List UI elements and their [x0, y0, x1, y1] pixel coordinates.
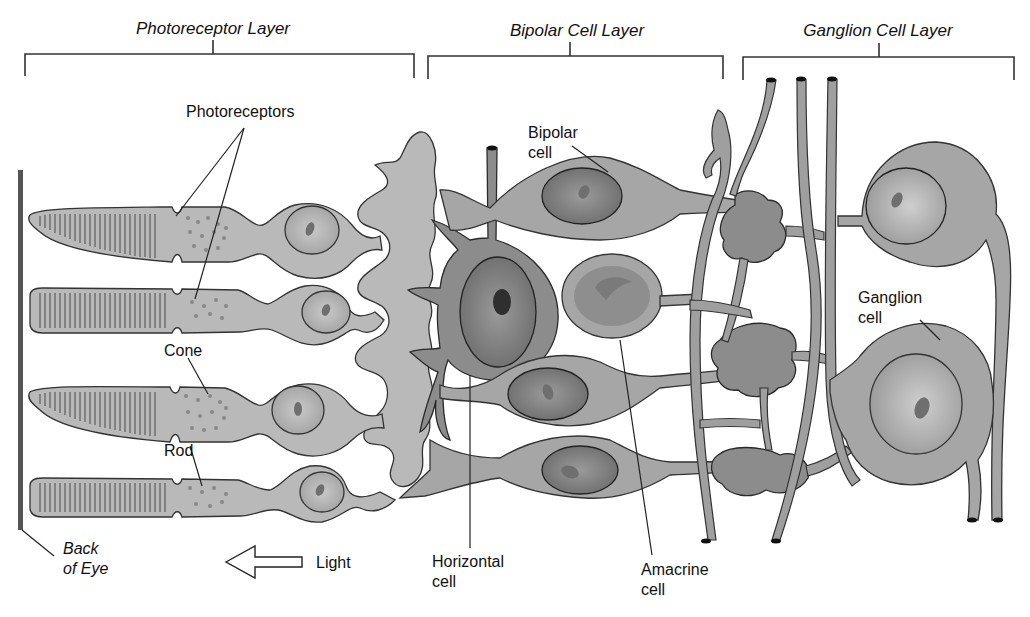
layer-bracket-photoreceptor: Photoreceptor Layer [25, 19, 414, 78]
photoreceptor-synaptic-terminals [355, 132, 436, 487]
rod-cell-2 [30, 466, 395, 522]
layer-bracket-ganglion: Ganglion Cell Layer [743, 21, 1014, 80]
light-direction-arrow [226, 546, 302, 578]
layer-label-ganglion: Ganglion Cell Layer [803, 21, 954, 40]
cone-cell-1 [29, 204, 382, 279]
rod-cell-1 [30, 285, 384, 344]
amacrine-cell-body [562, 254, 700, 338]
label-light: Light [316, 554, 351, 571]
label-amacrine-cell: Amacrine cell [641, 561, 713, 598]
label-bipolar-cell: Bipolar cell [528, 124, 582, 161]
ganglion-cell-2 [830, 324, 993, 523]
label-rod: Rod [164, 442, 193, 459]
label-back-of-eye: Back of Eye [63, 540, 108, 577]
label-horizontal-cell: Horizontal cell [432, 553, 508, 590]
layer-label-photoreceptor: Photoreceptor Layer [136, 19, 291, 38]
label-cone: Cone [164, 342, 202, 359]
layer-bracket-bipolar: Bipolar Cell Layer [428, 21, 723, 79]
layer-label-bipolar: Bipolar Cell Layer [510, 21, 646, 40]
back-of-eye-bar [18, 170, 23, 530]
cone-cell-2 [29, 384, 384, 456]
label-photoreceptors: Photoreceptors [186, 103, 295, 120]
retina-diagram: Photoreceptor Layer Bipolar Cell Layer G… [0, 0, 1030, 617]
label-ganglion-cell: Ganglion cell [858, 289, 927, 326]
